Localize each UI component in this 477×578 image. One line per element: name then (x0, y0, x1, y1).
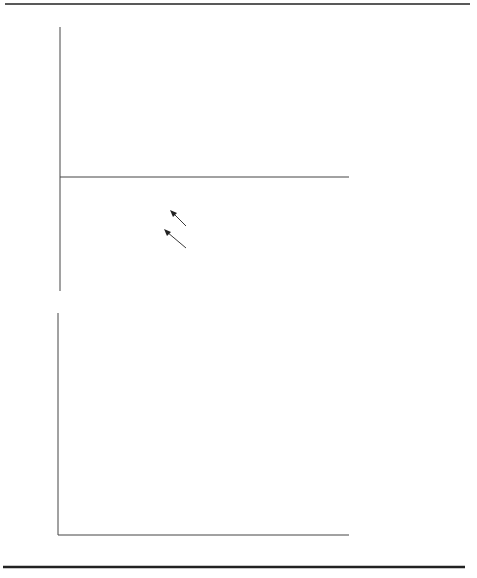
arrow-discount-10 (170, 210, 186, 226)
arrow-discount-20 (164, 229, 186, 248)
price-change-chart (60, 27, 349, 291)
duration-chart (58, 313, 349, 535)
bond-charts (0, 0, 477, 578)
